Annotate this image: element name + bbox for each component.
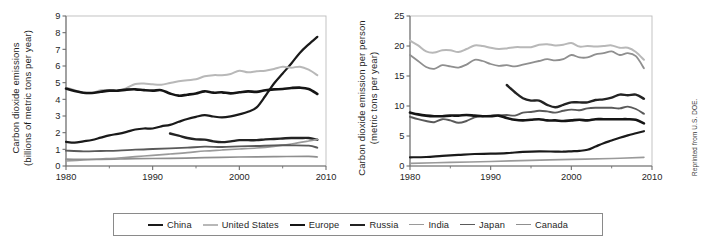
legend-swatch-line-icon bbox=[203, 224, 218, 226]
series-line-russia bbox=[170, 134, 317, 143]
y-axis-label-left-line2: (billions of metric tons per year) bbox=[22, 14, 34, 182]
legend-label: India bbox=[428, 220, 449, 230]
legend: ChinaUnited StatesEuropeRussiaIndiaJapan… bbox=[113, 213, 603, 236]
series-line-canada bbox=[66, 156, 317, 159]
series-group bbox=[410, 41, 644, 164]
legend-item-united-states[interactable]: United States bbox=[203, 220, 279, 230]
y-axis-label-left-line1: Carbon dioxide emissions bbox=[10, 14, 22, 182]
y-tick-label: 25 bbox=[394, 11, 404, 21]
x-tick-label: 1990 bbox=[142, 172, 163, 182]
series-line-india bbox=[410, 157, 644, 163]
legend-item-russia[interactable]: Russia bbox=[350, 220, 398, 230]
x-tick-label: 2000 bbox=[561, 172, 582, 182]
x-axis-ticks: 1980199020002010 bbox=[56, 166, 337, 182]
x-tick-label: 1990 bbox=[480, 172, 501, 182]
y-axis-label-right-line2: (metric tons per year) bbox=[368, 12, 380, 184]
series-line-china bbox=[410, 131, 644, 157]
x-tick-label: 2010 bbox=[642, 172, 663, 182]
plot-area-per-person-emissions: 05101520251980199020002010 bbox=[380, 0, 682, 196]
y-tick-label: 0 bbox=[399, 161, 404, 171]
series-line-europe bbox=[66, 88, 317, 96]
legend-item-canada[interactable]: Canada bbox=[516, 220, 568, 230]
y-tick-label: 1 bbox=[55, 145, 60, 155]
legend-swatch-line-icon bbox=[290, 224, 305, 226]
series-line-canada bbox=[410, 51, 644, 69]
legend-swatch-line-icon bbox=[409, 224, 424, 225]
y-tick-label: 9 bbox=[55, 11, 60, 21]
x-tick-label: 1980 bbox=[400, 172, 421, 182]
y-tick-label: 3 bbox=[55, 111, 60, 121]
legend-swatch-line-icon bbox=[350, 224, 365, 226]
y-tick-label: 2 bbox=[55, 128, 60, 138]
y-tick-label: 6 bbox=[55, 61, 60, 71]
legend-label: Japan bbox=[479, 220, 505, 230]
y-tick-label: 10 bbox=[394, 101, 404, 111]
axis-frame bbox=[410, 16, 652, 166]
y-tick-label: 7 bbox=[55, 45, 60, 55]
figure-root: Carbon dioxide emissions (billions of me… bbox=[0, 0, 714, 247]
source-credit: Reprinted from U.S. DOE. bbox=[691, 99, 698, 176]
legend-item-europe[interactable]: Europe bbox=[290, 220, 340, 230]
x-tick-label: 2000 bbox=[229, 172, 250, 182]
legend-label: United States bbox=[222, 220, 279, 230]
series-group bbox=[66, 37, 317, 161]
x-axis-ticks: 1980199020002010 bbox=[400, 166, 663, 182]
legend-label: China bbox=[167, 220, 192, 230]
series-line-united-states bbox=[410, 41, 644, 60]
y-tick-label: 8 bbox=[55, 28, 60, 38]
plot-area-total-emissions: 01234567891980199020002010 bbox=[40, 0, 340, 196]
y-tick-label: 0 bbox=[55, 161, 60, 171]
y-axis-label-right-line1: Carbon dioxide emission per person bbox=[356, 12, 368, 184]
y-axis-label-left: Carbon dioxide emissions (billions of me… bbox=[10, 14, 33, 182]
chart-svg-per-person-emissions: 05101520251980199020002010 bbox=[380, 0, 682, 196]
y-axis-ticks: 0123456789 bbox=[55, 11, 66, 171]
y-tick-label: 5 bbox=[55, 78, 60, 88]
legend-label: Russia bbox=[369, 220, 398, 230]
y-tick-label: 5 bbox=[399, 131, 404, 141]
y-tick-label: 15 bbox=[394, 71, 404, 81]
y-axis-label-right: Carbon dioxide emission per person (metr… bbox=[356, 12, 379, 184]
legend-swatch-line-icon bbox=[516, 224, 531, 225]
series-line-japan bbox=[66, 145, 317, 151]
legend-item-china[interactable]: China bbox=[148, 220, 192, 230]
series-line-russia bbox=[507, 85, 644, 107]
legend-item-japan[interactable]: Japan bbox=[460, 220, 505, 230]
chart-panel-total-emissions: Carbon dioxide emissions (billions of me… bbox=[0, 0, 354, 200]
y-tick-label: 20 bbox=[394, 41, 404, 51]
x-tick-label: 1980 bbox=[56, 172, 77, 182]
chart-panel-per-person-emissions: Carbon dioxide emission per person (metr… bbox=[354, 0, 714, 200]
x-tick-label: 2010 bbox=[316, 172, 337, 182]
chart-svg-total-emissions: 01234567891980199020002010 bbox=[40, 0, 340, 196]
legend-label: Canada bbox=[535, 220, 568, 230]
y-tick-label: 4 bbox=[55, 95, 60, 105]
legend-label: Europe bbox=[309, 220, 340, 230]
y-axis-ticks: 0510152025 bbox=[394, 11, 410, 171]
legend-item-india[interactable]: India bbox=[409, 220, 449, 230]
series-line-europe bbox=[410, 113, 644, 124]
legend-swatch-line-icon bbox=[460, 224, 475, 225]
legend-swatch-line-icon bbox=[148, 224, 163, 226]
